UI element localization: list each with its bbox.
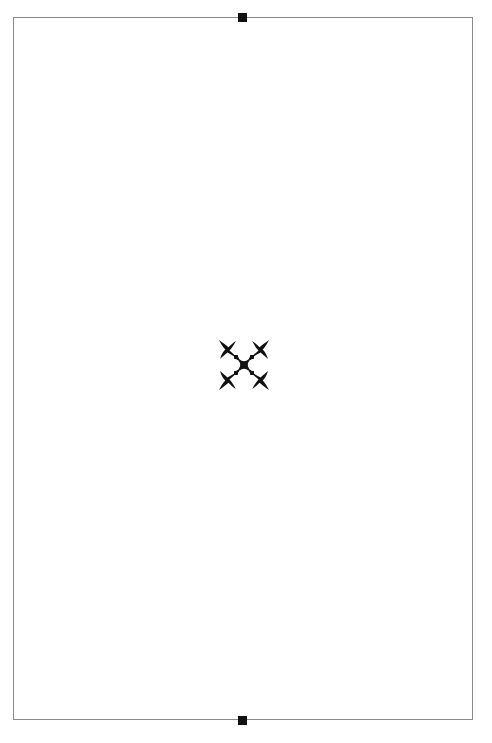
bottom-edge-marker	[238, 716, 247, 725]
fleuron-ornament-icon	[218, 339, 270, 391]
top-edge-marker	[238, 13, 247, 22]
